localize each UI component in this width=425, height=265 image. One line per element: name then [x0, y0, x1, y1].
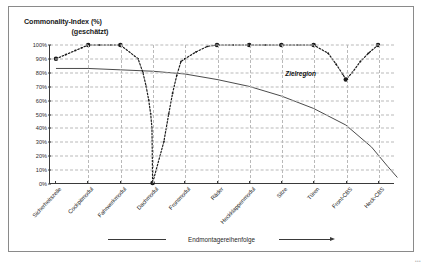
x-axis-tick-mark [378, 181, 379, 184]
series-point [195, 51, 197, 53]
gridline-horizontal [50, 170, 394, 171]
gridline-horizontal [50, 142, 394, 143]
y-axis-tick-label: 0% [39, 181, 47, 187]
arrow-head [330, 237, 335, 241]
y-axis-title: Commonality-Index (%) (geschätzt) [22, 17, 182, 36]
chart-screenshot: Commonality-Index (%) (geschätzt) 100%90… [0, 0, 425, 265]
y-axis-tick-label: 30% [36, 139, 47, 145]
y-axis-tick-mark [48, 156, 51, 157]
gridline-horizontal [50, 86, 394, 87]
chart-legend: Endmontagereihenfolge [49, 232, 394, 246]
series-point [176, 75, 178, 77]
x-axis-tick-mark [217, 181, 218, 184]
y-axis-tick-mark [48, 72, 51, 73]
sequence-arrow-icon [279, 237, 335, 241]
gridline-horizontal [50, 100, 394, 101]
y-axis-tick-mark [48, 86, 51, 87]
series-point [327, 52, 329, 54]
gridline-vertical [379, 45, 380, 183]
gridline-vertical [347, 45, 348, 183]
y-axis-tick-mark [48, 114, 51, 115]
y-axis-title-line2: (geschätzt) [22, 27, 182, 37]
gridline-vertical [153, 45, 154, 183]
y-axis-tick-label: 60% [36, 98, 47, 104]
y-axis-tick-label: 90% [36, 56, 47, 62]
y-axis-title-line1: Commonality-Index (%) [22, 17, 182, 27]
series-point [81, 47, 83, 49]
x-axis-tick-mark [120, 181, 121, 184]
y-axis-tick-label: 10% [36, 167, 47, 173]
series-point [368, 52, 370, 54]
y-axis-tick-label: 40% [36, 125, 47, 131]
y-axis-tick-mark [48, 100, 51, 101]
gridline-vertical [88, 45, 89, 183]
series-point [335, 64, 337, 66]
gridline-horizontal [50, 156, 394, 157]
series-point [342, 73, 344, 75]
y-axis-tick-label: 100% [33, 42, 47, 48]
x-axis-tick-mark [55, 181, 56, 184]
legend-line-swatch [108, 239, 166, 240]
gridline-horizontal [50, 114, 394, 115]
x-axis-tick-mark [313, 181, 314, 184]
y-axis-tick-mark [48, 128, 51, 129]
gridline-horizontal [50, 72, 394, 73]
x-axis-tick-mark [184, 181, 185, 184]
y-axis-tick-label: 80% [36, 70, 47, 76]
legend-label: Endmontagereihenfolge [188, 236, 255, 243]
series-point [180, 61, 182, 63]
x-axis-tick-mark [249, 181, 250, 184]
gridline-horizontal [50, 128, 394, 129]
series-point [360, 61, 362, 63]
arrow-shaft [279, 239, 331, 240]
corner-mark: ••• [415, 259, 421, 264]
series-point [172, 93, 174, 95]
series-point [65, 54, 67, 56]
gridline-vertical [282, 45, 283, 183]
y-axis-tick-mark [48, 58, 51, 59]
gridline-vertical [218, 45, 219, 183]
series-point [75, 50, 77, 52]
zielregion-annotation: Zielregion [285, 70, 316, 77]
y-axis-tick-mark [48, 184, 51, 185]
plot-area: 100%90%80%70%60%50%40%30%20%10%0% Zielre… [49, 45, 394, 184]
plot-inner: 100%90%80%70%60%50%40%30%20%10%0% [50, 45, 394, 183]
y-axis-tick-mark [48, 45, 51, 46]
gridline-vertical [250, 45, 251, 183]
gridline-horizontal [50, 58, 394, 59]
gridline-vertical [314, 45, 315, 183]
x-axis-tick-mark [87, 181, 88, 184]
x-axis-tick-mark [152, 181, 153, 184]
series-point [207, 46, 209, 48]
y-axis-tick-label: 70% [36, 84, 47, 90]
x-axis-tick-mark [346, 181, 347, 184]
gridline-vertical [185, 45, 186, 183]
x-axis-tick-mark [281, 181, 282, 184]
y-axis-tick-label: 20% [36, 153, 47, 159]
gridline-vertical [121, 45, 122, 183]
y-axis-tick-mark [48, 170, 51, 171]
y-axis-tick-mark [48, 142, 51, 143]
gridline-horizontal [50, 45, 394, 46]
y-axis-tick-label: 50% [36, 112, 47, 118]
